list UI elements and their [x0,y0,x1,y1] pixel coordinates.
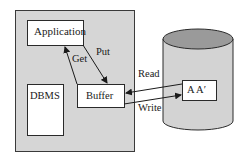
get-label: Get [72,54,87,65]
buffer-label: Buffer [86,91,113,102]
application-label: Application [34,26,86,37]
diagram-canvas: Application DBMS Buffer A A′ Get Put Rea… [0,0,243,160]
disk-cylinder-icon [163,29,233,130]
read-label: Read [138,69,160,80]
dbms-label: DBMS [30,91,60,102]
put-label: Put [96,47,110,58]
write-label: Write [138,103,161,114]
diagram-svg [0,0,243,160]
disk-block-label: A A′ [187,85,206,96]
